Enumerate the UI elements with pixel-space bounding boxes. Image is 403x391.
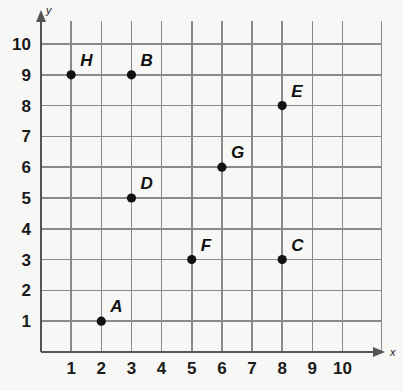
- x-tick-label: 7: [247, 359, 256, 378]
- y-tick-label: 3: [22, 251, 31, 270]
- x-tick-label: 4: [157, 359, 167, 378]
- point-label-f: F: [201, 236, 212, 255]
- y-tick-label: 1: [22, 312, 31, 331]
- x-tick-label: 1: [66, 359, 75, 378]
- y-tick-label: 2: [22, 281, 31, 300]
- x-tick-label: 9: [308, 359, 317, 378]
- point-marker-g: [217, 163, 226, 172]
- grid-lines: [41, 21, 382, 352]
- y-tick-label: 6: [22, 158, 31, 177]
- tick-labels-y: 12345678910: [12, 35, 31, 331]
- x-axis-arrow-icon: [373, 347, 385, 357]
- point-label-b: B: [140, 51, 152, 70]
- y-tick-label: 5: [22, 189, 31, 208]
- x-tick-label: 6: [217, 359, 226, 378]
- x-tick-label: 3: [127, 359, 136, 378]
- coordinate-plane-screen: 12345678910 12345678910 ABCDEFGH xy: [0, 0, 403, 391]
- y-tick-label: 8: [22, 97, 31, 116]
- point-label-h: H: [80, 51, 93, 70]
- point-label-a: A: [109, 297, 122, 316]
- x-tick-label: 10: [333, 359, 352, 378]
- point-marker-f: [187, 255, 196, 264]
- tick-labels-x: 12345678910: [66, 359, 352, 378]
- data-points: ABCDEFGH: [67, 51, 305, 326]
- scatter-plot: 12345678910 12345678910 ABCDEFGH xy: [0, 0, 403, 391]
- y-tick-label: 4: [22, 220, 32, 239]
- y-tick-label: 7: [22, 127, 31, 146]
- x-tick-label: 5: [187, 359, 196, 378]
- point-marker-d: [127, 193, 136, 202]
- x-axis-name: x: [389, 346, 396, 358]
- point-marker-b: [127, 70, 136, 79]
- point-marker-h: [67, 70, 76, 79]
- y-tick-label: 9: [22, 66, 31, 85]
- x-tick-label: 8: [277, 359, 286, 378]
- point-label-d: D: [140, 174, 152, 193]
- y-axis-arrow-icon: [36, 10, 46, 22]
- point-marker-a: [97, 317, 106, 326]
- axis-names: xy: [45, 4, 396, 358]
- point-marker-e: [278, 101, 287, 110]
- point-label-c: C: [291, 236, 304, 255]
- x-tick-label: 2: [97, 359, 106, 378]
- y-tick-label: 10: [12, 35, 31, 54]
- point-label-e: E: [291, 82, 303, 101]
- point-label-g: G: [231, 143, 244, 162]
- point-marker-c: [278, 255, 287, 264]
- y-axis-name: y: [45, 4, 53, 16]
